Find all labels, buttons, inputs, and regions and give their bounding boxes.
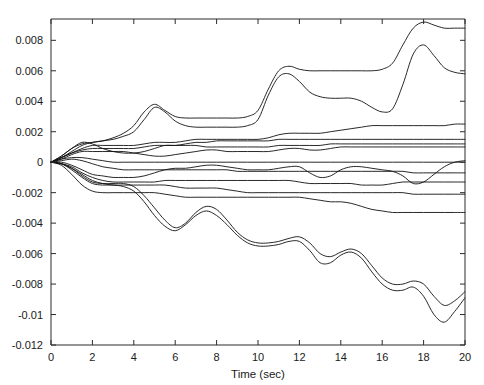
- x-tick-label: 0: [48, 351, 54, 363]
- x-tick-label: 18: [417, 351, 429, 363]
- y-tick-label: 0.008: [15, 34, 43, 46]
- x-tick-label: 12: [293, 351, 305, 363]
- x-tick-label: 20: [459, 351, 471, 363]
- y-tick-label: -0.008: [12, 278, 43, 290]
- x-tick-label: 10: [252, 351, 264, 363]
- y-tick-label: 0.004: [15, 95, 43, 107]
- x-tick-label: 16: [376, 351, 388, 363]
- x-tick-label: 6: [172, 351, 178, 363]
- y-tick-label: -0.002: [12, 187, 43, 199]
- y-tick-label: -0.01: [18, 309, 43, 321]
- figure-container: 024681012141618200.0080.0060.0040.0020-0…: [0, 0, 484, 385]
- y-tick-label: -0.004: [12, 217, 43, 229]
- y-tick-label: -0.006: [12, 248, 43, 260]
- x-tick-label: 14: [335, 351, 347, 363]
- x-tick-label: 2: [89, 351, 95, 363]
- y-tick-label: 0: [37, 156, 43, 168]
- y-tick-label: 0.006: [15, 65, 43, 77]
- x-axis-title: Time (sec): [231, 368, 285, 380]
- x-tick-label: 8: [214, 351, 220, 363]
- x-tick-label: 4: [131, 351, 137, 363]
- y-tick-label: -0.012: [12, 339, 43, 351]
- y-tick-label: 0.002: [15, 126, 43, 138]
- line-chart: 024681012141618200.0080.0060.0040.0020-0…: [0, 0, 484, 385]
